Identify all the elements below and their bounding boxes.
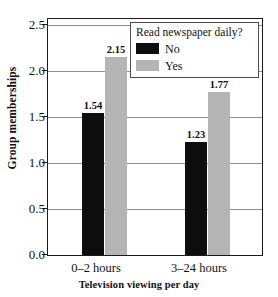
x-axis-title: Television viewing per day <box>0 279 278 290</box>
bar-chart: 2.5 2.0 1.5 1.0 0.5 0.0 1.54 2.15 1.23 1… <box>0 0 278 297</box>
legend-entry-yes: Yes <box>136 58 258 73</box>
legend-label-no: No <box>165 43 180 55</box>
bar-value-3-24-hours-no: 1.23 <box>171 130 221 141</box>
y-tick-label: 0.0 <box>5 248 45 261</box>
y-tick-label: 2.5 <box>5 18 45 31</box>
legend-label-yes: Yes <box>165 60 182 72</box>
legend-entry-no: No <box>136 41 258 56</box>
legend-title: Read newspaper daily? <box>136 26 258 39</box>
y-axis-title: Group memberships <box>6 43 18 193</box>
bar-value-3-24-hours-yes: 1.77 <box>194 80 244 91</box>
legend-swatch-no <box>136 43 159 54</box>
y-tick-label: 0.5 <box>5 202 45 215</box>
legend: Read newspaper daily? No Yes <box>130 22 259 78</box>
bar-value-0-2-hours-no: 1.54 <box>68 101 118 112</box>
x-tick-label-0-2-hours: 0–2 hours <box>46 261 146 276</box>
x-tick-label-3-24-hours: 3–24 hours <box>147 261 251 276</box>
legend-swatch-yes <box>136 60 159 71</box>
